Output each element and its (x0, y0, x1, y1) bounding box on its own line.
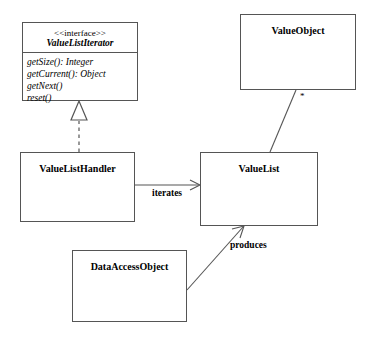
relationship-realization (71, 101, 87, 152)
class-title: ValueObject (272, 25, 325, 36)
class-member: getNext() (27, 80, 137, 92)
class-header-value-list: ValueList (201, 153, 317, 179)
iterates-open-arrowhead (190, 180, 200, 190)
class-title: ValueListHandler (39, 163, 115, 174)
class-header-data-access-object: DataAccessObject (73, 251, 186, 277)
class-members-compartment: getSize(): Integer getCurrent(): Object … (23, 52, 137, 105)
class-header-value-list-iterator: <<interface>> ValueListIterator (23, 23, 137, 52)
produces-open-arrowhead (232, 226, 244, 238)
multiplicity-label-contains: * (300, 91, 305, 101)
class-box-value-list-iterator[interactable]: <<interface>> ValueListIterator getSize(… (22, 22, 138, 101)
class-box-value-list-handler[interactable]: ValueListHandler (20, 152, 135, 222)
class-box-data-access-object[interactable]: DataAccessObject (72, 250, 187, 322)
class-header-value-list-handler: ValueListHandler (21, 153, 134, 179)
produces-line (187, 227, 243, 290)
contains-line (270, 90, 296, 152)
relationship-produces (187, 226, 244, 290)
uml-class-diagram: <<interface>> ValueListIterator getSize(… (0, 0, 370, 340)
class-box-value-list[interactable]: ValueList (200, 152, 318, 226)
class-title: DataAccessObject (91, 261, 169, 272)
relationship-contains (270, 90, 296, 152)
class-member: getCurrent(): Object (27, 68, 137, 80)
class-header-value-object: ValueObject (241, 15, 355, 41)
class-member: getSize(): Integer (27, 56, 137, 68)
class-box-value-object[interactable]: ValueObject (240, 14, 356, 90)
stereotype-label: <<interface>> (23, 28, 137, 38)
edge-label-iterates: iterates (152, 188, 182, 198)
edge-label-produces: produces (230, 240, 267, 250)
class-title: ValueList (239, 163, 280, 174)
class-member: reset() (27, 92, 137, 104)
class-title: ValueListIterator (23, 38, 137, 49)
